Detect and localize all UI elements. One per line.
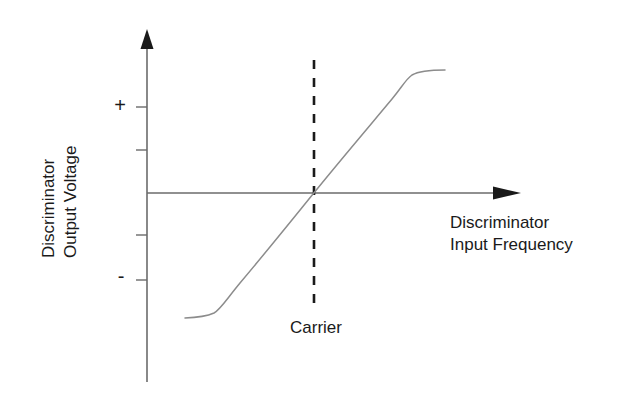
discriminator-s-curve-figure: + - Discriminator Output Voltage Discrim… [0, 0, 641, 399]
x-axis-title: Discriminator Input Frequency [450, 212, 573, 257]
y-axis-title: Discriminator Output Voltage [38, 146, 83, 258]
y-axis-negative-label: - [110, 266, 132, 286]
y-axis-arrowhead-icon [141, 29, 154, 49]
y-axis-positive-label: + [109, 95, 131, 115]
y-axis-ticks [136, 107, 147, 280]
carrier-label: Carrier [256, 318, 376, 338]
plot-canvas [0, 0, 641, 399]
x-axis-arrowhead-icon [493, 187, 521, 200]
